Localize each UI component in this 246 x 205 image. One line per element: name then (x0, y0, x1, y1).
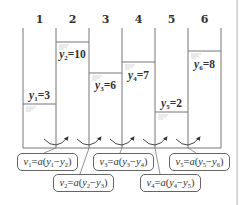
level-value: 2 (176, 97, 182, 109)
diagram-stage: 1 2 3 4 5 6 y1=3 y2=10 y3=6 y4=7 y5=2 y6… (0, 0, 246, 205)
close-paren: ) (104, 177, 108, 188)
flux-connector-line (155, 148, 160, 174)
close-paren: ) (220, 156, 224, 167)
column-number-4: 4 (122, 13, 155, 26)
column-walls (23, 28, 221, 148)
level-label-5: y5=2 (155, 97, 188, 111)
flux-connector-line (80, 148, 89, 174)
level-value: 3 (44, 89, 50, 101)
column-number-3: 3 (89, 13, 122, 26)
column-number-2: 2 (56, 13, 89, 26)
close-paren: ) (144, 156, 148, 167)
level-value: 8 (209, 58, 215, 70)
flux-label-5: v5=a(y5−y6) (169, 153, 230, 171)
level-label-1: y1=3 (23, 89, 56, 103)
column-number-5: 5 (155, 13, 188, 26)
level-value: 10 (74, 48, 86, 60)
flux-label-3: v3=a(y3−y4) (93, 153, 154, 171)
flux-label-4: v4=a(y4−y5) (140, 174, 201, 192)
flux-label-2: v2=a(y2−y3) (53, 174, 114, 192)
column-number-6: 6 (188, 13, 221, 26)
level-value: 7 (143, 69, 149, 81)
level-label-2: y2=10 (56, 48, 89, 62)
flux-label-1: v1=a(y1−y2) (17, 153, 78, 171)
level-label-3: y3=6 (89, 79, 122, 93)
column-number-1: 1 (23, 13, 56, 26)
close-paren: ) (191, 177, 195, 188)
level-label-6: y6=8 (188, 58, 221, 72)
level-label-4: y4=7 (122, 69, 155, 83)
level-value: 6 (110, 79, 116, 91)
close-paren: ) (68, 156, 72, 167)
